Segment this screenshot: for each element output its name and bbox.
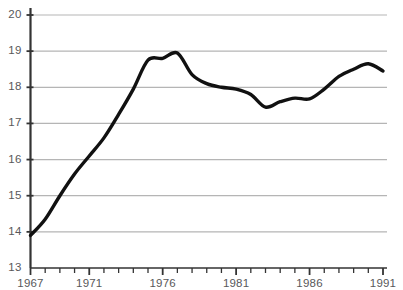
- y-axis-tick-label: 15: [0, 190, 22, 201]
- x-axis-tick-label: 1971: [59, 278, 119, 289]
- y-axis-tick-label: 19: [0, 45, 22, 56]
- x-axis-tick-label: 1991: [353, 278, 403, 289]
- x-axis-tick-label: 1981: [206, 278, 266, 289]
- y-axis-tick-label: 20: [0, 9, 22, 20]
- y-axis-tick-label: 18: [0, 81, 22, 92]
- chart-plot-area: [0, 0, 403, 290]
- x-axis-tick-label: 1986: [280, 278, 340, 289]
- y-axis-tick-label: 16: [0, 154, 22, 165]
- data-line-series-1: [31, 52, 384, 235]
- x-axis-tick-label: 1976: [133, 278, 193, 289]
- y-axis-tick-label: 13: [0, 262, 22, 273]
- gridlines: [31, 15, 388, 232]
- x-axis-ticks: [31, 268, 384, 275]
- x-axis-tick-label: 1967: [1, 278, 61, 289]
- line-chart: 1314151617181920 19671971197619811986199…: [0, 0, 403, 290]
- y-axis-tick-label: 17: [0, 117, 22, 128]
- y-axis-tick-label: 14: [0, 226, 22, 237]
